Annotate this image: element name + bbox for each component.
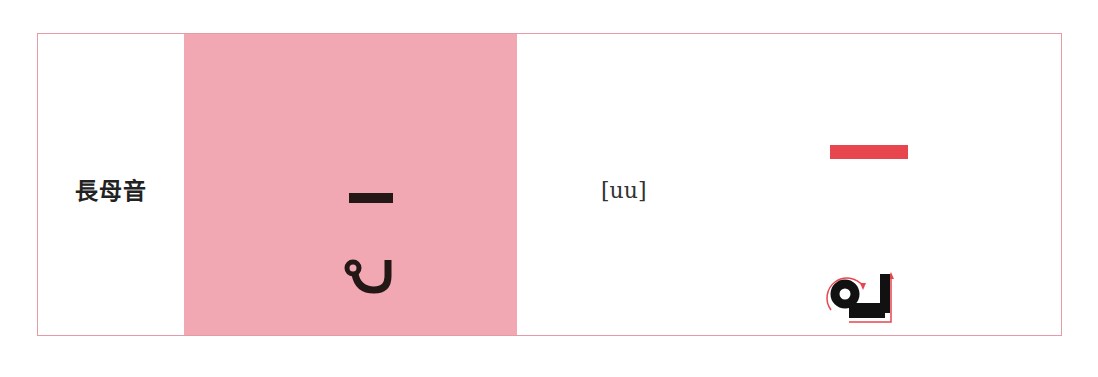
vowel-uu-glyph-icon xyxy=(344,256,400,296)
category-label: 長母音 xyxy=(75,172,147,206)
category-cell: 長母音 xyxy=(38,34,184,335)
stroke-order-glyph-icon xyxy=(819,266,899,328)
vowel-table-row: 長母音 [uu] xyxy=(37,33,1062,336)
pronunciation-cell: [uu] xyxy=(517,34,1061,335)
pronunciation-text: [uu] xyxy=(601,178,647,203)
stroke-dash-icon xyxy=(830,145,908,159)
letter-cell xyxy=(184,34,517,335)
placeholder-dash-icon xyxy=(349,193,393,203)
